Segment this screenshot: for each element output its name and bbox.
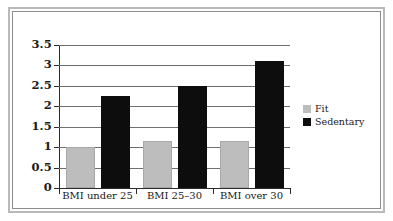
figure-root: 00.511.522.533.5 BMI under 25BMI 25–30BM… xyxy=(0,0,393,221)
y-axis-tick-label: 3 xyxy=(6,59,52,71)
legend-label-fit: Fit xyxy=(315,103,328,114)
category-label: BMI over 30 xyxy=(213,190,290,201)
plot-area xyxy=(59,45,290,188)
bar-sedentary-bmi-under-25 xyxy=(101,96,130,188)
gridline xyxy=(59,45,290,46)
y-axis-tick-label: 0.5 xyxy=(6,162,52,174)
legend-swatch-fit-icon xyxy=(303,105,311,113)
y-axis-tick-label: 1.5 xyxy=(6,121,52,133)
y-axis-tick-label: 3.5 xyxy=(6,39,52,51)
category-label: BMI under 25 xyxy=(59,190,136,201)
category-label: BMI 25–30 xyxy=(136,190,213,201)
bar-sedentary-bmi-over-30 xyxy=(255,61,284,188)
y-axis-tick-label: 2.5 xyxy=(6,80,52,92)
bar-fit-bmi-25-30 xyxy=(143,141,172,188)
legend-label-sedentary: Sedentary xyxy=(315,116,364,127)
y-axis-tick-label: 1 xyxy=(6,141,52,153)
y-axis-tick-label: 2 xyxy=(6,100,52,112)
bar-fit-bmi-over-30 xyxy=(220,141,249,188)
chart-legend: Fit Sedentary xyxy=(303,103,364,129)
y-axis-tick-label: 0 xyxy=(6,182,52,194)
legend-item-fit: Fit xyxy=(303,103,364,114)
y-axis-labels: 00.511.522.533.5 xyxy=(0,0,52,221)
legend-item-sedentary: Sedentary xyxy=(303,116,364,127)
gridline xyxy=(59,188,290,189)
bar-sedentary-bmi-25-30 xyxy=(178,86,207,188)
bar-fit-bmi-under-25 xyxy=(66,147,95,188)
legend-swatch-sedentary-icon xyxy=(303,118,311,126)
category-tick xyxy=(290,188,291,194)
